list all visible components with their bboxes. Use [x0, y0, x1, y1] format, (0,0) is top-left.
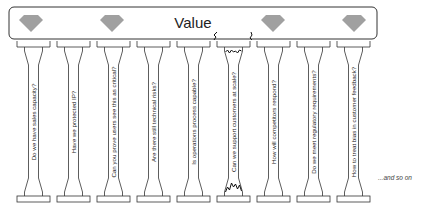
pillar-base — [137, 196, 170, 202]
continuation-note: ...and so on — [378, 174, 412, 181]
pillar-base — [297, 196, 330, 202]
pillar-capital — [57, 41, 90, 47]
pillar-capital — [17, 41, 50, 47]
pillar-capital — [337, 41, 370, 47]
crack-top — [226, 50, 242, 53]
pillar-base — [337, 196, 370, 202]
pillar-base — [17, 196, 50, 202]
pillar-shaft-left — [25, 47, 29, 196]
pillar-shaft-right — [119, 47, 123, 196]
pillar-capital — [137, 41, 170, 47]
pillar-shaft-left — [185, 47, 189, 196]
pillar-base — [97, 196, 130, 202]
value-pillars-diagram: Value Do we have sales capacity?Have we … — [0, 0, 423, 212]
pillar: Have we protected IP? — [57, 41, 90, 202]
pillar-base — [257, 196, 290, 202]
pillar-question: Have we protected IP? — [70, 90, 77, 153]
pillar-question: Is operations process capable? — [190, 79, 197, 165]
pillar: Is operations process capable? — [177, 41, 210, 202]
pillar-shaft-left — [265, 47, 269, 196]
pillar-capital — [217, 41, 250, 47]
pillar: Do we meet regulatory requirements? — [297, 41, 330, 202]
pillar-capital — [177, 41, 210, 47]
pillar-capital — [297, 41, 330, 47]
pillar-question: How will competitors respond? — [270, 79, 277, 163]
pillar: How will competitors respond? — [257, 41, 290, 202]
pillar-question: Are there still technical risks? — [150, 81, 157, 162]
pillar-shaft-left — [305, 47, 309, 196]
pillar: Can you prove users see this as critical… — [97, 41, 130, 202]
pillar-shaft-left — [345, 47, 349, 196]
pillar-base — [57, 196, 90, 202]
pillar-shaft-right — [359, 47, 363, 196]
pillar: Are there still technical risks? — [137, 41, 170, 202]
pillar-shaft-right — [159, 47, 163, 196]
pillar-shaft-right — [199, 47, 203, 196]
pillar: Do we have sales capacity? — [17, 41, 50, 202]
pillar-shaft-left — [225, 47, 229, 196]
pillar-question: How to treat bias in customer feedback? — [350, 66, 357, 177]
pillar-shaft-right — [319, 47, 323, 196]
pillar-shaft-right — [239, 47, 243, 196]
pillar: Can we support customers at scale? — [214, 32, 252, 202]
pillar-shaft-right — [39, 47, 43, 196]
pillar-question: Can we support customers at scale? — [230, 71, 237, 172]
pillar-shaft-left — [105, 47, 109, 196]
pillar-shaft-left — [65, 47, 69, 196]
pillar-shaft-right — [79, 47, 83, 196]
crack-bottom — [226, 183, 242, 192]
pillar-shaft-left — [145, 47, 149, 196]
roof-label: Value — [174, 14, 211, 31]
pillar-capital — [257, 41, 290, 47]
pillar-capital — [97, 41, 130, 47]
pillar-question: Can you prove users see this as critical… — [110, 66, 117, 178]
pillar-question: Do we have sales capacity? — [30, 83, 37, 160]
pillar-base — [177, 196, 210, 202]
pillar-shaft-right — [279, 47, 283, 196]
pillar-question: Do we meet regulatory requirements? — [310, 70, 317, 174]
pillar-base — [217, 196, 250, 202]
pillar: How to treat bias in customer feedback? — [337, 41, 370, 202]
